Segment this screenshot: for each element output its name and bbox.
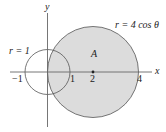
region-label: A [91, 49, 97, 59]
x-axis-label: x [155, 66, 159, 76]
big-circle-label: r = 4 cos θ [115, 20, 159, 30]
unit-circle-label: r = 1 [9, 46, 30, 56]
y-axis-label: y [45, 2, 49, 12]
tick-label-2: 2 [90, 74, 95, 84]
tick-label-4: 4 [137, 74, 142, 84]
tick-label-1: 1 [70, 74, 75, 84]
tick-label-neg1: −1 [12, 74, 23, 84]
